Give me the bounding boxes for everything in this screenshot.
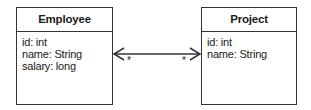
association-line bbox=[0, 0, 311, 110]
multiplicity-employee: * bbox=[127, 55, 131, 66]
multiplicity-project: * bbox=[182, 55, 186, 66]
